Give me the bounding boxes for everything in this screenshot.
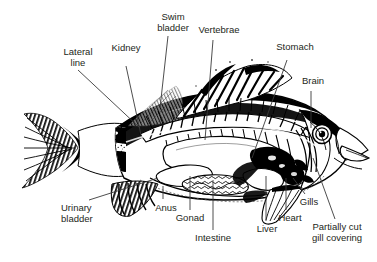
label-stomach: Stomach <box>266 42 324 53</box>
label-lateral-line: Lateral line <box>47 47 109 68</box>
fish-anatomy-figure: Lateral lineKidneySwim bladderVertebraeS… <box>0 0 377 262</box>
label-liver: Liver <box>250 224 284 235</box>
label-gonad: Gonad <box>168 213 212 224</box>
label-gills: Gills <box>293 197 325 208</box>
label-partially-cut-gill-covering: Partially cut gill covering <box>297 222 377 243</box>
label-urinary-bladder: Urinary bladder <box>61 203 117 224</box>
lateral-line-leader <box>78 70 140 128</box>
label-vertebrae: Vertebrae <box>189 25 249 36</box>
label-kidney: Kidney <box>103 43 149 54</box>
caudal-fin <box>22 113 86 188</box>
label-brain: Brain <box>293 76 333 87</box>
label-intestine: Intestine <box>187 233 239 244</box>
